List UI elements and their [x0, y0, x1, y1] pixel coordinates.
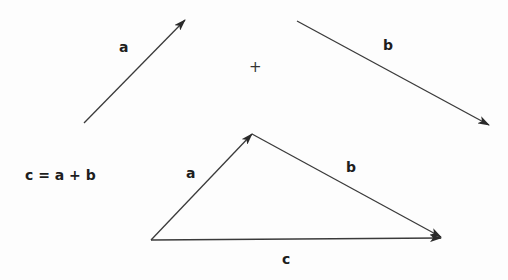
vector-a-top: [84, 20, 185, 123]
label-b-triangle: b: [346, 159, 356, 175]
vector-addition-diagram: a + b c = a + b a b c: [0, 0, 508, 280]
label-a-triangle: a: [186, 165, 195, 181]
vector-b-triangle: [252, 134, 441, 237]
label-c-resultant: c: [282, 251, 290, 267]
vector-a-triangle: [151, 134, 252, 240]
label-b-top: b: [383, 37, 393, 53]
vector-c-resultant: [151, 238, 441, 240]
diagram-svg: a + b c = a + b a b c: [0, 0, 508, 280]
equation-label: c = a + b: [25, 167, 96, 183]
label-a-top: a: [119, 39, 128, 55]
plus-sign: +: [249, 58, 262, 76]
